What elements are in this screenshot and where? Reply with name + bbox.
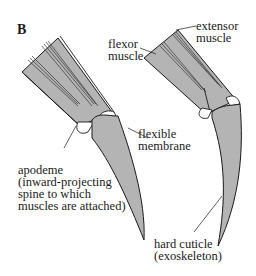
left-membrane bbox=[77, 122, 94, 133]
right-membrane bbox=[199, 108, 212, 118]
flexor-muscle-label: flexor muscle bbox=[108, 38, 143, 62]
flexible-membrane-label: flexible membrane bbox=[138, 128, 191, 152]
extensor-muscle-label: extensor muscle bbox=[196, 20, 238, 44]
apodeme-label: apodeme (inward-projecting spine to whic… bbox=[18, 164, 126, 212]
right-claw bbox=[212, 104, 241, 246]
hard-cuticle-label: hard cuticle (exoskeleton) bbox=[154, 238, 222, 262]
